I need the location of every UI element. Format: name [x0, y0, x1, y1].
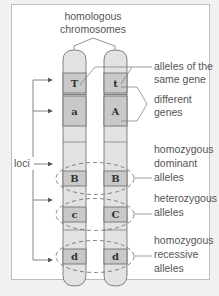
label-homozygous-recessive-1: homozygous — [154, 234, 214, 246]
title-line-1: homologous — [64, 10, 121, 22]
allele-left-4: c — [71, 209, 77, 220]
label-heterozygous-1: heterozygous — [154, 192, 217, 204]
label-homozygous-dominant-2: dominant — [154, 157, 197, 169]
allele-left-3: B — [70, 173, 78, 184]
allele-right-1: t — [113, 78, 118, 89]
label-homozygous-dominant-3: alleles — [154, 171, 184, 183]
title-line-2: chromosomes — [60, 23, 126, 35]
label-different-genes-2: genes — [154, 106, 183, 118]
title-bracket — [74, 38, 115, 52]
allele-right-2: A — [111, 106, 120, 117]
loci-arrows — [33, 80, 52, 260]
chromosome-diagram: homologous chromosomes T a B c d t A B C… — [0, 0, 219, 296]
allele-right-5: d — [112, 251, 119, 262]
label-homozygous-recessive-2: recessive — [154, 248, 199, 260]
label-homozygous-recessive-3: alleles — [154, 262, 184, 274]
allele-right-4: C — [112, 209, 120, 220]
label-alleles-same-gene-2: same gene — [154, 73, 206, 85]
loci-label: loci — [14, 157, 30, 169]
allele-right-3: B — [111, 173, 119, 184]
allele-left-5: d — [71, 251, 78, 262]
label-homozygous-dominant-1: homozygous — [154, 143, 214, 155]
allele-left-1: T — [71, 78, 79, 89]
allele-left-2: a — [71, 106, 78, 117]
label-heterozygous-2: alleles — [154, 206, 184, 218]
label-different-genes-1: different — [154, 93, 192, 105]
label-alleles-same-gene-1: alleles of the — [154, 60, 213, 72]
